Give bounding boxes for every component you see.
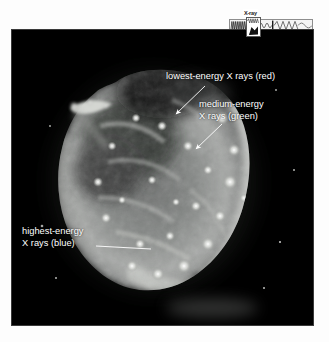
spectrum-band-label: X-ray bbox=[243, 9, 258, 17]
figure-container: X-ray bbox=[0, 0, 329, 342]
annotation-highest-energy-line1: highest-energy bbox=[22, 226, 84, 238]
annotation-lowest-energy-line1: lowest-energy X rays (red) bbox=[166, 71, 275, 83]
annotation-medium-energy-line2: X rays (green) bbox=[199, 111, 264, 123]
annotation-lowest-energy: lowest-energy X rays (red) bbox=[166, 71, 275, 83]
annotation-medium-energy-line1: medium-energy bbox=[199, 99, 264, 111]
annotation-highest-energy-line2: X rays (blue) bbox=[22, 238, 84, 250]
electromagnetic-spectrum-strip bbox=[229, 19, 313, 30]
annotation-medium-energy: medium-energy X rays (green) bbox=[199, 99, 264, 122]
x-ray-band-pointer-icon bbox=[246, 17, 261, 37]
annotation-highest-energy: highest-energy X rays (blue) bbox=[22, 226, 84, 249]
